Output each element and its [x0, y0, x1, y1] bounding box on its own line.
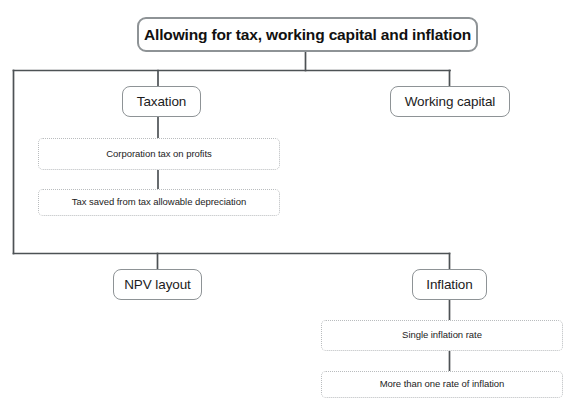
node-tax-saved-depreciation[interactable]: Tax saved from tax allowable depreciatio… — [38, 189, 280, 216]
node-working-capital-label: Working capital — [405, 94, 496, 110]
node-inflation-label: Inflation — [426, 277, 472, 293]
node-taxation[interactable]: Taxation — [122, 86, 201, 117]
node-tax-saved-label: Tax saved from tax allowable depreciatio… — [72, 197, 246, 208]
node-corporation-tax-label: Corporation tax on profits — [106, 149, 211, 160]
node-more-than-one-rate-label: More than one rate of inflation — [380, 379, 505, 390]
node-title-allowing-for-tax[interactable]: Allowing for tax, working capital and in… — [137, 17, 478, 52]
node-more-than-one-rate-of-inflation[interactable]: More than one rate of inflation — [321, 371, 563, 398]
node-inflation[interactable]: Inflation — [412, 269, 487, 300]
node-npv-layout[interactable]: NPV layout — [113, 269, 202, 300]
node-npv-layout-label: NPV layout — [124, 277, 191, 293]
node-single-inflation-rate[interactable]: Single inflation rate — [321, 320, 563, 351]
node-corporation-tax-on-profits[interactable]: Corporation tax on profits — [38, 138, 280, 170]
node-title-label: Allowing for tax, working capital and in… — [144, 26, 471, 44]
node-taxation-label: Taxation — [137, 94, 186, 110]
node-single-inflation-rate-label: Single inflation rate — [402, 330, 482, 341]
flowchart-diagram: Allowing for tax, working capital and in… — [0, 0, 580, 403]
node-working-capital[interactable]: Working capital — [390, 86, 510, 117]
